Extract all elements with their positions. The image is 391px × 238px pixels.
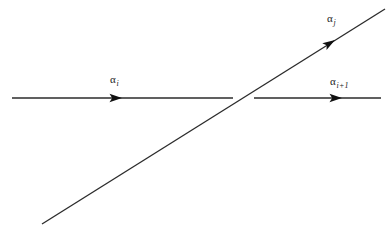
label-alpha-i-plus-1-subscript: i+1 xyxy=(337,81,349,90)
label-alpha-i-subscript: i xyxy=(117,79,119,88)
label-alpha-i: αi xyxy=(110,74,119,88)
arrowhead-alpha-j-icon xyxy=(322,37,337,50)
label-alpha-i-plus-1: αi+1 xyxy=(330,76,349,90)
figure-canvas: αi αj αi+1 xyxy=(0,0,391,238)
label-alpha-j: αj xyxy=(327,13,336,27)
figure-svg xyxy=(0,0,391,238)
label-alpha-j-subscript: j xyxy=(334,18,336,27)
label-alpha-i-plus-1-symbol: α xyxy=(330,75,336,87)
label-alpha-i-symbol: α xyxy=(110,73,116,85)
label-alpha-j-symbol: α xyxy=(327,12,333,24)
